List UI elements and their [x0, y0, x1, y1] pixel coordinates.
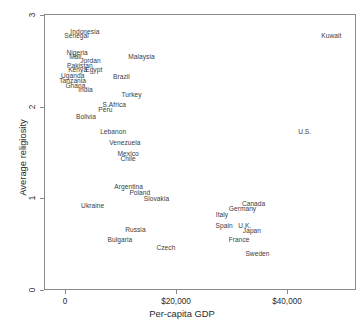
data-point-label: Japan [243, 227, 261, 234]
data-point-label: Kuwait [321, 33, 341, 40]
x-axis-tick [176, 290, 177, 294]
y-axis-tick [40, 290, 44, 291]
data-point-label: Ukraine [81, 202, 104, 209]
data-point-label: Bolivia [76, 114, 96, 121]
data-point-label: Germany [229, 205, 256, 212]
data-point-label: Bulgaria [108, 236, 133, 243]
scatter-plot-figure: IndonesiaSenegalNigeriaMaliJordanMalaysi… [0, 0, 364, 326]
x-axis-tick-label: $40,000 [272, 297, 302, 306]
data-point-label: Venezuela [109, 139, 140, 146]
y-axis-title: Average religiosity [17, 78, 28, 238]
data-point-label: Sweden [245, 251, 269, 258]
data-point-label: Peru [98, 107, 112, 114]
data-point-label: France [229, 236, 250, 243]
y-axis-tick [40, 198, 44, 199]
x-axis-tick-label: $20,000 [161, 297, 191, 306]
y-axis-tick-label: 3 [28, 13, 37, 18]
plot-frame: IndonesiaSenegalNigeriaMaliJordanMalaysi… [44, 14, 356, 290]
data-point-label: Turkey [121, 92, 141, 99]
data-point-label: India [78, 87, 93, 94]
data-point-label: Brazil [113, 73, 130, 80]
y-axis-tick-label: 2 [28, 104, 37, 109]
x-axis-tick [287, 290, 288, 294]
y-axis-tick [40, 107, 44, 108]
data-point-label: Russia [125, 226, 145, 233]
data-point-label: Malaysia [128, 54, 154, 61]
data-point-label: Italy [216, 212, 228, 219]
data-point-label: Egypt [85, 67, 102, 74]
y-axis-tick [40, 15, 44, 16]
x-axis-title: Per-capita GDP [0, 308, 364, 319]
plot-area: IndonesiaSenegalNigeriaMaliJordanMalaysi… [45, 15, 355, 289]
data-point-label: Spain [216, 223, 233, 230]
data-point-label: Senegal [64, 33, 89, 40]
data-point-label: Slovakia [144, 196, 169, 203]
data-point-label: Chile [121, 156, 136, 163]
x-axis-tick [65, 290, 66, 294]
x-axis-tick-label: 0 [63, 297, 68, 306]
data-point-label: Czech [156, 245, 175, 252]
y-axis-tick-label: 0 [28, 288, 37, 293]
y-axis-tick-label: 1 [28, 196, 37, 201]
data-point-label: Lebanon [100, 129, 126, 136]
data-point-label: U.S. [298, 129, 311, 136]
